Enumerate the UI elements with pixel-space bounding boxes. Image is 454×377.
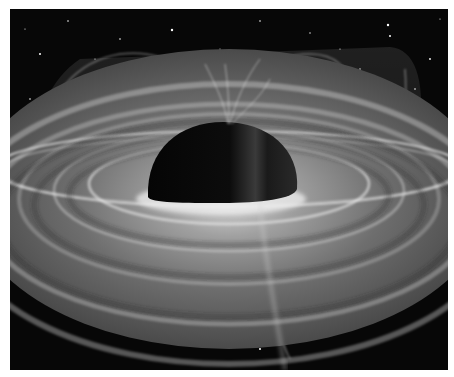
black-hole-illustration (10, 9, 448, 370)
illustration-canvas (10, 9, 448, 370)
